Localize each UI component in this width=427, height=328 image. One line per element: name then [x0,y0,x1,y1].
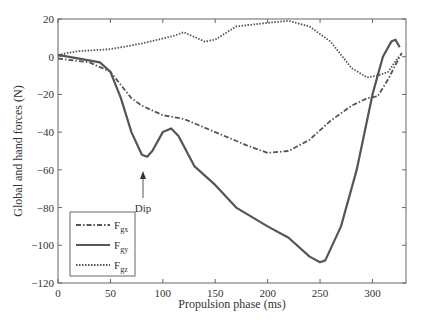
x-tick-label: 100 [155,287,172,299]
legend: FgxFgyFgz [70,212,135,276]
y-tick-label: −60 [37,164,55,176]
line-chart: 050100150200250300 200−20−40−60−80−100−1… [0,0,427,328]
y-tick-label: −80 [37,202,55,214]
series-fgx [58,53,402,153]
x-axis-label: Propulsion phase (ms) [178,297,285,311]
x-tick-label: 0 [55,287,61,299]
x-tick-label: 250 [312,287,329,299]
y-tick-label: −20 [37,88,55,100]
dip-label: Dip [135,202,152,214]
dip-annotation: Dip [135,171,152,214]
x-tick-label: 300 [364,287,381,299]
y-tick-label: 20 [43,13,55,25]
x-tick-label: 50 [105,287,117,299]
dip-arrow-icon [140,171,146,179]
y-tick-label: −120 [31,277,54,289]
y-tick-label: 0 [49,51,55,63]
y-tick-label: −100 [31,239,54,251]
y-axis-label: Global and hand forces (N) [11,85,25,216]
series-fgz [58,21,399,78]
y-tick-label: −40 [37,126,55,138]
